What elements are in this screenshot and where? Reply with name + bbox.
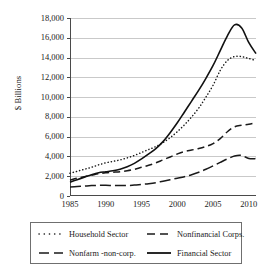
x-tick-label: 1995 <box>122 200 162 209</box>
y-tick-label: 10,000 <box>20 93 64 102</box>
x-tick-label: 2005 <box>193 200 233 209</box>
series-line-nonfinancial-corps <box>70 123 256 180</box>
y-tick-label: 16,000 <box>20 33 64 42</box>
legend-label: Financial Sector <box>177 249 231 258</box>
y-tick-label: 18,000 <box>20 14 64 23</box>
y-tick-label: 4,000 <box>20 152 64 161</box>
series-line-nonfarm-non-corp <box>70 155 256 187</box>
chart-figure: $ Billions 18,00016,00014,00012,00010,00… <box>0 0 272 274</box>
legend-label: Household Sector <box>69 230 128 239</box>
x-tick-label: 2000 <box>157 200 197 209</box>
legend-item-household-sector: Household Sector <box>31 224 145 244</box>
plot-area <box>70 18 256 196</box>
x-tick-label: 2010 <box>229 200 269 209</box>
legend-label: Nonfarm -non-corp. <box>69 249 136 258</box>
chart-legend: Household Sector Nonfinancial Corps. Non… <box>30 222 242 264</box>
legend-item-financial-sector: Financial Sector <box>145 243 243 263</box>
x-tick-label: 1985 <box>50 200 90 209</box>
dotted-line-swatch <box>37 229 65 239</box>
y-tick-label: 14,000 <box>20 53 64 62</box>
legend-item-nonfinancial-corps: Nonfinancial Corps. <box>145 224 243 244</box>
x-tick-label: 1990 <box>86 200 126 209</box>
dashed-line-swatch <box>145 229 173 239</box>
series-line-financial-sector <box>70 24 256 182</box>
y-tick-label: 6,000 <box>20 132 64 141</box>
legend-item-nonfarm-non-corp: Nonfarm -non-corp. <box>31 243 145 263</box>
y-tick-label: 2,000 <box>20 172 64 181</box>
series-lines <box>70 18 256 196</box>
series-line-household-sector <box>70 56 256 173</box>
y-tick-label: 8,000 <box>20 112 64 121</box>
long-dash-line-swatch <box>37 248 65 258</box>
legend-row: Nonfarm -non-corp. Financial Sector <box>31 243 243 263</box>
y-tick-mark <box>67 196 70 197</box>
solid-line-swatch <box>145 248 173 258</box>
legend-row: Household Sector Nonfinancial Corps. <box>31 224 243 244</box>
y-tick-label: 12,000 <box>20 73 64 82</box>
legend-label: Nonfinancial Corps. <box>177 230 244 239</box>
